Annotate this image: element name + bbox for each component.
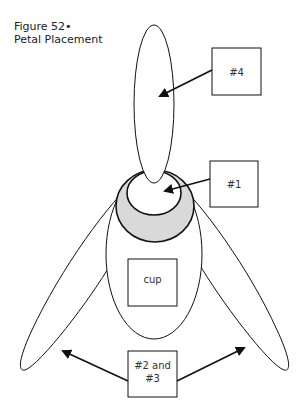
label-box-petals-2-3: #2 and #3 xyxy=(128,351,177,397)
label-box-petal-4: #4 xyxy=(212,48,261,95)
arrow-petal-3 xyxy=(177,348,244,381)
label-cup: cup xyxy=(143,274,161,285)
label-petals-2-3-line1: #2 and xyxy=(134,360,171,371)
label-petal-4: #4 xyxy=(229,67,244,78)
label-box-petal-1: #1 xyxy=(210,161,258,207)
petal-placement-diagram: #4 #1 cup #2 and #3 xyxy=(0,0,308,418)
label-petal-1: #1 xyxy=(227,179,242,190)
petal-4-ellipse xyxy=(134,25,174,183)
label-box-cup: cup xyxy=(128,259,177,306)
label-petals-2-3-line2: #3 xyxy=(145,373,160,384)
arrow-petal-2 xyxy=(63,351,128,381)
